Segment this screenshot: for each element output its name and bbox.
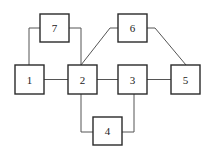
- node-label: 4: [105, 125, 111, 137]
- edge-2-6: [81, 28, 118, 65]
- node-5: 5: [171, 65, 200, 94]
- node-label: 2: [80, 74, 86, 86]
- node-3: 3: [118, 65, 147, 94]
- node-6: 6: [118, 14, 147, 42]
- node-label: 7: [52, 22, 58, 34]
- edge-6-5: [147, 28, 186, 65]
- node-2: 2: [68, 65, 97, 94]
- block-diagram: 1 2 3 4 5 6 7: [0, 0, 214, 158]
- edge-1-7: [29, 28, 40, 65]
- node-label: 6: [130, 22, 136, 34]
- node-label: 5: [183, 74, 189, 86]
- edge-4-3: [122, 94, 134, 132]
- edge-2-4: [81, 94, 93, 132]
- node-4: 4: [93, 117, 122, 145]
- node-7: 7: [40, 14, 69, 42]
- edge-7-2: [69, 28, 81, 65]
- node-label: 1: [27, 74, 33, 86]
- node-label: 3: [130, 74, 136, 86]
- node-1: 1: [15, 65, 44, 94]
